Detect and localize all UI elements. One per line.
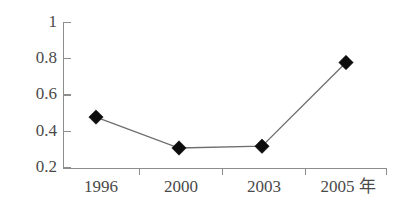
chart-canvas: 1 0.8 0.6 0.4 0.2 1996 2000 2003 2005 年	[0, 0, 402, 216]
x-tick-label-2000: 2000	[164, 177, 198, 196]
y-tick-label-0-8: 0.8	[36, 48, 57, 67]
x-tick-label-2003: 2003	[247, 177, 281, 196]
x-tick-label-1996: 1996	[84, 177, 118, 196]
y-tick-label-0-4: 0.4	[36, 121, 58, 140]
y-tick-label-0-2: 0.2	[36, 157, 57, 176]
x-tick-label-2005: 2005 年	[320, 177, 375, 196]
line-chart: 1 0.8 0.6 0.4 0.2 1996 2000 2003 2005 年	[0, 0, 402, 216]
y-tick-label-0-6: 0.6	[36, 84, 57, 103]
y-tick-label-1: 1	[49, 12, 58, 31]
